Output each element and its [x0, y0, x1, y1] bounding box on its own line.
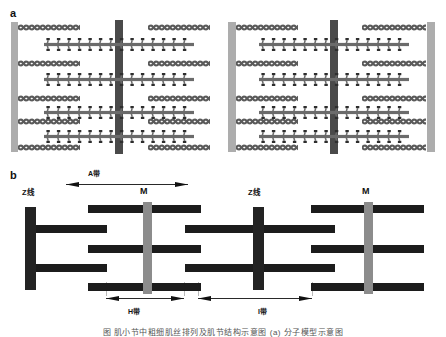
h-band-label: H带: [128, 308, 140, 315]
thin-filament: [18, 118, 80, 125]
thin-filament: [236, 24, 298, 31]
filament-bar: [36, 225, 107, 233]
thick-filament: [44, 73, 194, 86]
h-band-arrow: [106, 294, 184, 303]
thin-filament: [236, 144, 298, 151]
thick-filament: [44, 130, 194, 143]
thin-filament: [236, 118, 298, 125]
z-line-left: [11, 22, 18, 152]
z-line-label-right: Z线: [248, 189, 260, 197]
filament-bar: [264, 225, 335, 233]
thin-filament: [148, 118, 210, 125]
b-z-line-left: [25, 207, 36, 290]
z-line-middle: [228, 22, 236, 152]
figure-caption: 图 肌小节中粗细肌丝排列及肌节结构示意图 (a) 分子模型示意图: [0, 326, 446, 337]
thick-filament: [259, 73, 409, 86]
thin-filament: [18, 60, 80, 67]
thin-filament: [18, 95, 80, 102]
a-band-arrow: [66, 180, 188, 189]
thick-filament: [259, 130, 409, 143]
thin-filament: [236, 60, 298, 67]
thin-filament: [18, 144, 80, 151]
thin-filament: [362, 95, 426, 102]
thin-filament: [362, 118, 426, 125]
thick-filament: [259, 38, 409, 51]
panel-b-schematic-diagram: Z线MZ线MA带H带I带: [0, 160, 446, 333]
panel-a-molecular-diagram: [0, 18, 446, 158]
thin-filament: [148, 144, 210, 151]
thin-filament: [362, 144, 426, 151]
thick-filament: [44, 106, 194, 119]
m-line-label-right: M: [362, 187, 370, 196]
b-m-line-left: [143, 202, 152, 294]
thin-filament: [148, 95, 210, 102]
b-m-line-right: [364, 202, 373, 294]
filament-bar: [36, 264, 107, 272]
thin-filament: [18, 24, 80, 31]
z-line-label-left: Z线: [22, 189, 34, 197]
thin-filament: [148, 24, 210, 31]
filament-bar: [264, 264, 335, 272]
thin-filament: [148, 60, 210, 67]
thin-filament: [362, 24, 426, 31]
thick-filament: [259, 106, 409, 119]
b-z-line-right: [253, 207, 264, 290]
thin-filament: [362, 60, 426, 67]
i-band-label: I带: [258, 308, 267, 315]
thin-filament: [236, 95, 298, 102]
z-line-right: [427, 22, 435, 152]
i-band-arrow: [198, 294, 312, 303]
a-band-label: A带: [88, 170, 100, 177]
thick-filament: [44, 38, 194, 51]
